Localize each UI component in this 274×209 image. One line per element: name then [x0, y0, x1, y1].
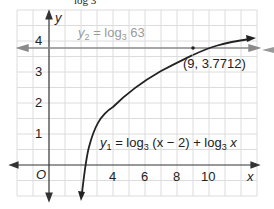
y2-arg: 63 [127, 25, 145, 40]
y1-log1: = log [112, 135, 144, 150]
y1-end: x [227, 135, 237, 150]
y-tick-4: 4 [35, 34, 42, 47]
side-arrow-icon [262, 47, 274, 53]
y-tick-3: 3 [35, 65, 42, 78]
x-axis [10, 162, 259, 168]
y2-equation-label: y2 = log3 63 [78, 26, 145, 42]
y2-line [18, 45, 259, 51]
intersection-point [191, 46, 195, 50]
origin-label: O [36, 168, 46, 181]
y2-log: = log [90, 25, 122, 40]
y-axis [46, 11, 52, 201]
header-fragment: log 3 [74, 0, 96, 6]
y1-equation-label: y1 = log3 (x − 2) + log3 x [100, 136, 237, 152]
intersection-label: (9, 3.7712) [183, 57, 246, 70]
x-tick-4: 4 [109, 170, 116, 183]
x-tick-6: 6 [141, 170, 148, 183]
x-tick-8: 8 [173, 170, 180, 183]
y-tick-2: 2 [35, 96, 42, 109]
x-tick-10: 10 [201, 170, 215, 183]
y1-mid: (x − 2) + log [149, 135, 222, 150]
x-axis-label: x [247, 170, 254, 183]
y-tick-1: 1 [35, 127, 42, 140]
y-axis-label: y [55, 11, 62, 24]
